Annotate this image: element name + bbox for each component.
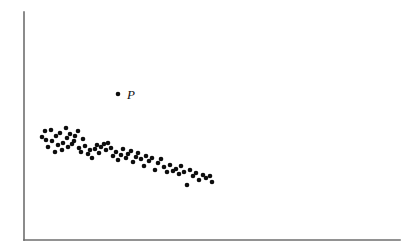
data-point <box>194 171 199 176</box>
data-point <box>46 145 51 150</box>
data-point <box>43 129 48 134</box>
data-point <box>134 155 139 160</box>
data-point <box>56 143 61 148</box>
data-point <box>93 147 98 152</box>
data-point <box>153 168 158 173</box>
data-point <box>119 153 124 158</box>
data-point <box>188 168 193 173</box>
data-point <box>88 148 93 153</box>
data-point <box>86 152 91 157</box>
data-point <box>168 163 173 168</box>
data-point <box>109 146 114 151</box>
data-point <box>121 147 126 152</box>
outlier-annotation-group: P <box>116 87 135 102</box>
data-point <box>136 151 141 156</box>
data-point <box>60 148 65 153</box>
data-point <box>72 139 77 144</box>
data-point <box>40 135 45 140</box>
data-point <box>106 141 111 146</box>
data-point <box>66 145 71 150</box>
data-point <box>208 174 213 179</box>
data-point <box>95 143 100 148</box>
data-point <box>65 136 70 141</box>
plot-canvas: P <box>0 0 416 252</box>
data-point <box>77 146 82 151</box>
data-point <box>68 132 73 137</box>
data-point <box>162 165 167 170</box>
data-point <box>185 183 190 188</box>
data-point <box>179 164 184 169</box>
data-point <box>142 164 147 169</box>
data-point <box>174 167 179 172</box>
data-point <box>58 131 63 136</box>
data-point <box>50 139 55 144</box>
data-point <box>144 154 149 159</box>
data-point <box>64 126 69 131</box>
data-point <box>104 148 109 153</box>
data-points-group <box>40 126 215 188</box>
data-point <box>182 170 187 175</box>
data-point <box>114 150 119 155</box>
data-point <box>44 138 49 143</box>
data-point <box>111 154 116 159</box>
outlier-data-point <box>116 92 121 97</box>
data-point <box>197 178 202 183</box>
data-point <box>139 157 144 162</box>
data-point <box>61 141 66 146</box>
data-point <box>76 129 81 134</box>
data-point <box>129 149 134 154</box>
data-point <box>53 150 58 155</box>
data-point <box>102 142 107 147</box>
data-point <box>156 161 161 166</box>
data-point <box>131 160 136 165</box>
data-point <box>90 156 95 161</box>
data-point <box>210 180 215 185</box>
data-point <box>79 150 84 155</box>
data-point <box>97 151 102 156</box>
data-point <box>54 134 59 139</box>
outlier-point-label: P <box>126 87 135 102</box>
data-point <box>159 157 164 162</box>
data-point <box>83 144 88 149</box>
data-point <box>116 158 121 163</box>
data-point <box>49 128 54 133</box>
scatter-plot-figure: P <box>0 0 416 252</box>
data-point <box>124 156 129 161</box>
data-point <box>81 137 86 142</box>
data-point <box>177 172 182 177</box>
data-point <box>204 176 209 181</box>
data-point <box>165 170 170 175</box>
data-point <box>150 156 155 161</box>
data-point <box>73 134 78 139</box>
